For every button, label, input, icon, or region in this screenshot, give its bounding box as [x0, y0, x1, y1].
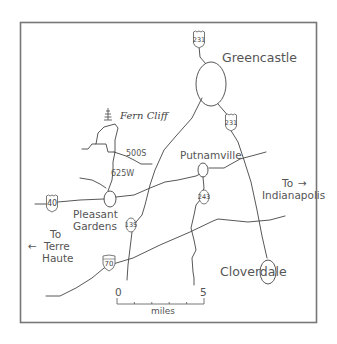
to-terre-haute-line3: Haute [42, 252, 74, 264]
to-indianapolis-line2: Indianapolis [262, 189, 325, 201]
greencastle-circle [196, 62, 226, 106]
road-greencastle-southwest [127, 98, 202, 280]
to-indianapolis-line1: To [281, 177, 293, 189]
greencastle-label: Greencastle [222, 50, 297, 65]
road-fern-cliff [82, 124, 118, 191]
i70-shield: 70 [103, 255, 115, 271]
road-us40 [58, 199, 104, 202]
fern-cliff-label: Fern Cliff [119, 110, 170, 121]
cloverdale-label: Cloverdale [220, 264, 287, 279]
pleasant-gardens-label-line1: Pleasant [73, 208, 118, 220]
us40-shield: 40 [47, 195, 58, 212]
pleasant-gardens-circle [104, 191, 116, 207]
us231-north-shield: 231 [193, 31, 205, 48]
scale-unit-label: miles [151, 306, 175, 316]
svg-text:231: 231 [225, 119, 237, 127]
road-us231-north [199, 46, 206, 64]
road-625w-spur [80, 178, 106, 188]
putnamville-circle [198, 163, 208, 177]
svg-text:40: 40 [47, 199, 57, 208]
road-label-625w: 625W [111, 169, 134, 178]
sr243-marker: 243 [198, 190, 210, 204]
arrow-left-icon: ← [28, 240, 37, 252]
road-label-500s: 500S [126, 149, 146, 158]
arrow-right-icon: → [298, 177, 307, 189]
svg-text:70: 70 [105, 260, 114, 268]
scale-start-label: 0 [115, 286, 122, 298]
tree-icon [104, 108, 112, 120]
scale-bar [117, 298, 204, 304]
road-fern-cliff-west [96, 144, 114, 152]
us231-south-shield: 231 [225, 114, 237, 131]
map-canvas: Fern Cliff Greencastle Putnamville Pleas… [0, 0, 337, 344]
svg-text:231: 231 [193, 36, 205, 44]
sr135-marker: 135 [125, 218, 137, 232]
putnamville-label: Putnamville [180, 149, 242, 161]
to-terre-haute-line1: To [49, 228, 61, 240]
to-terre-haute-line2: Terre [43, 240, 70, 252]
svg-text:135: 135 [125, 221, 137, 229]
svg-text:243: 243 [198, 193, 210, 201]
scale-end-label: 5 [200, 286, 207, 298]
pleasant-gardens-label-line2: Gardens [73, 220, 117, 232]
